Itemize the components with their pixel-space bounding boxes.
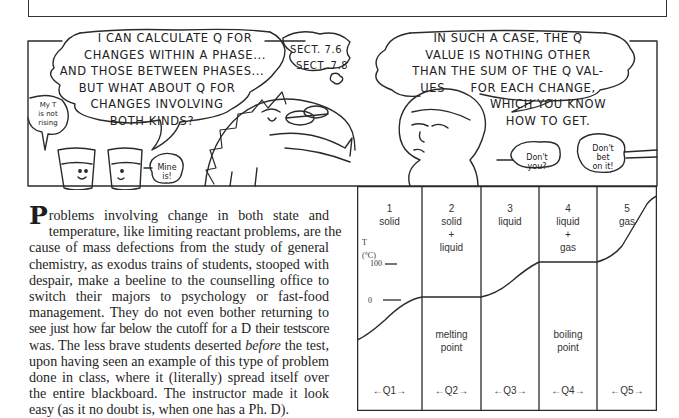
- bubble-line: Mine: [153, 163, 181, 172]
- heating-curve-chart: 1 solid 2 solid + liquid 3 liquid 4 liqu…: [357, 186, 657, 411]
- text-line: cause of mass defections from the study …: [29, 239, 329, 255]
- y-axis-symbol: T: [362, 236, 376, 249]
- speech-line: which you know: [468, 96, 628, 113]
- text-line: management. They do not even bother retu…: [29, 304, 329, 320]
- bubble-line: bet: [582, 153, 624, 162]
- region-phase: liquid: [481, 215, 539, 228]
- speech-line: value is nothing other: [388, 47, 628, 64]
- bubble-line: on it!: [582, 162, 624, 171]
- region-number: 5: [597, 202, 657, 215]
- dropcap: P: [29, 206, 48, 226]
- region-number: 3: [481, 202, 539, 215]
- region-1-label: 1 solid: [357, 202, 422, 228]
- top-panel-border: [28, 0, 667, 17]
- note-line: point: [422, 341, 481, 354]
- text-line: temperature, like limiting reactant prob…: [29, 223, 329, 239]
- q1-label: ←Q1→: [357, 384, 422, 397]
- speech-bubble-left: I can calculate Q for changes within a p…: [62, 30, 282, 129]
- region-phase: liquid: [422, 241, 481, 254]
- region-number: 4: [539, 202, 597, 215]
- speech-line: and those between phases...: [42, 63, 282, 80]
- region-5-label: 5 gas: [597, 202, 657, 228]
- speech-line: but what about Q for: [32, 80, 282, 97]
- region-phase: solid: [357, 215, 422, 228]
- q-value: Q4: [561, 385, 574, 396]
- bubble-mine-is: Mine is!: [153, 163, 181, 181]
- italic-word: before: [245, 337, 280, 353]
- bubble-line: Don't: [515, 153, 559, 162]
- bubble-my-t-not-rising: My T is not rising: [31, 101, 65, 128]
- thought-sect-76: Sect. 7.6: [290, 42, 342, 59]
- bubble-line: rising: [31, 119, 65, 128]
- speech-line: I can calculate Q for: [62, 30, 282, 47]
- bubble-line: Don't: [582, 144, 624, 153]
- region-3-label: 3 liquid: [481, 202, 539, 228]
- region-phase: +: [539, 228, 597, 241]
- q5-label: ←Q5→: [597, 384, 657, 397]
- region-phase: +: [422, 228, 481, 241]
- region-number: 2: [422, 202, 481, 215]
- region-4-label: 4 liquid + gas: [539, 202, 597, 254]
- note-line: melting: [422, 328, 481, 341]
- speech-line: changes involving: [32, 96, 282, 113]
- q-value: Q2: [445, 385, 458, 396]
- y-tick-0: 0: [368, 296, 372, 305]
- text-line: switch their majors to psychology or fas…: [29, 288, 329, 304]
- q-value: Q5: [620, 385, 633, 396]
- speech-line: than the sum of the Q val-: [388, 63, 628, 80]
- q2-label: ←Q2→: [422, 384, 481, 397]
- bubble-line: is not: [31, 110, 65, 119]
- text-line: was. The less brave students deserted be…: [29, 337, 329, 353]
- region-phase: liquid: [539, 215, 597, 228]
- note-line: point: [539, 341, 597, 354]
- text-line: chemistry, as exodus trains of students,…: [29, 256, 329, 272]
- text-line: despair, make a beeline to the counselli…: [29, 272, 329, 288]
- speech-bubble-right: In such a case, the Q value is nothing o…: [388, 30, 628, 129]
- y-tick-100: 100: [370, 259, 382, 268]
- region-phase: solid: [422, 215, 481, 228]
- melting-point-note: melting point: [422, 328, 481, 354]
- thought-sect-78: Sect. 7.8: [296, 58, 348, 75]
- bubble-dont-you: Don't you?: [515, 153, 559, 171]
- text-line: roblems involving change in both state a…: [29, 207, 329, 223]
- boiling-point-note: boiling point: [539, 328, 597, 354]
- bubble-line: is!: [153, 172, 181, 181]
- region-phase: gas: [539, 241, 597, 254]
- text-line: easy (as it no doubt is, when one has a …: [29, 401, 329, 417]
- article-body: P roblems involving change in both state…: [29, 207, 329, 418]
- note-line: boiling: [539, 328, 597, 341]
- text-line: see just how far below the cutoff for a …: [29, 320, 329, 336]
- region-number: 1: [357, 202, 422, 215]
- speech-line: ues for each change,: [388, 80, 628, 97]
- bubble-line: you?: [515, 162, 559, 171]
- q-value: Q3: [503, 385, 516, 396]
- bubble-dont-bet: Don't bet on it!: [582, 144, 624, 171]
- speech-line: changes within a phase...: [62, 47, 282, 64]
- comic-panel: I can calculate Q for changes within a p…: [0, 20, 679, 190]
- text-fragment: the test,: [281, 337, 329, 353]
- q3-label: ←Q3→: [481, 384, 539, 397]
- q-value: Q1: [383, 385, 396, 396]
- text-line: done in class, where it (literally) spre…: [29, 369, 329, 385]
- q4-label: ←Q4→: [539, 384, 597, 397]
- region-phase: gas: [597, 215, 657, 228]
- text-fragment: was. The less brave students deserted: [29, 337, 245, 353]
- speech-line: how to get.: [468, 113, 628, 130]
- text-line: upon having seen an example of this type…: [29, 353, 329, 369]
- text-line: the entire blackboard. The instructor ma…: [29, 385, 329, 401]
- bubble-line: My T: [31, 101, 65, 110]
- speech-line: In such a case, the Q: [388, 30, 628, 47]
- region-2-label: 2 solid + liquid: [422, 202, 481, 254]
